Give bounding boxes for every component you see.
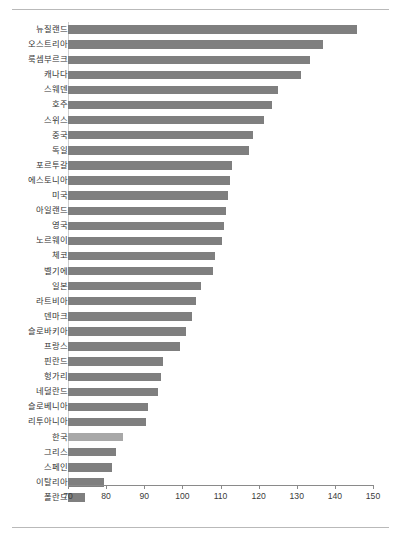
bar: [68, 131, 253, 139]
bar: [68, 297, 196, 305]
bar-track: [68, 128, 373, 143]
bar: [68, 252, 215, 260]
bar-track: [68, 264, 373, 279]
bar-category-label: 슬로바키아: [0, 324, 68, 339]
bar-row: 핀란드: [0, 354, 401, 369]
bar-category-label: 오스트리아: [0, 37, 68, 52]
bar-track: [68, 37, 373, 52]
bar-category-label: 룩셈부르크: [0, 52, 68, 67]
bar-category-label: 헝가리: [0, 369, 68, 384]
bar-category-label: 영국: [0, 218, 68, 233]
bar-row: 네덜란드: [0, 384, 401, 399]
bar-track: [68, 384, 373, 399]
bar-track: [68, 233, 373, 248]
bar: [68, 388, 158, 396]
bar-track: [68, 113, 373, 128]
bar-category-label: 포르투갈: [0, 158, 68, 173]
bar: [68, 357, 163, 365]
bar-category-label: 핀란드: [0, 354, 68, 369]
bar-category-label: 독일: [0, 143, 68, 158]
bottom-divider-rule: [12, 527, 389, 528]
bar-row: 오스트리아: [0, 37, 401, 52]
x-axis-tick-label: 100: [162, 491, 202, 501]
x-axis-tick-label: 90: [124, 491, 164, 501]
bar-row: 중국: [0, 128, 401, 143]
bar: [68, 418, 146, 426]
bar-category-label: 일본: [0, 279, 68, 294]
bar: [68, 176, 230, 184]
bar-track: [68, 430, 373, 445]
bar: [68, 222, 224, 230]
bar-row: 리투아니아: [0, 414, 401, 429]
bar: [68, 71, 301, 79]
bar-track: [68, 22, 373, 37]
bar-row: 스위스: [0, 113, 401, 128]
bar-track: [68, 82, 373, 97]
x-axis-tick: [106, 485, 107, 489]
bar: [68, 101, 272, 109]
bar-category-label: 캐나다: [0, 67, 68, 82]
bar-row: 체코: [0, 248, 401, 263]
bar-track: [68, 188, 373, 203]
bar: [68, 86, 278, 94]
top-divider-rule: [12, 9, 389, 10]
bar-track: [68, 399, 373, 414]
bar-track: [68, 279, 373, 294]
bar-category-label: 벨기에: [0, 264, 68, 279]
bar-category-label: 아일랜드: [0, 203, 68, 218]
bar-row: 노르웨이: [0, 233, 401, 248]
bar-track: [68, 369, 373, 384]
bar-category-label: 에스토니아: [0, 173, 68, 188]
bar-row: 호주: [0, 97, 401, 112]
x-axis-tick: [259, 485, 260, 489]
bar-category-label: 한국: [0, 430, 68, 445]
bar-category-label: 스웨덴: [0, 82, 68, 97]
bar-row: 그리스: [0, 445, 401, 460]
bar: [68, 403, 148, 411]
x-axis-tick: [335, 485, 336, 489]
bar: [68, 56, 310, 64]
x-axis-tick-label: 80: [86, 491, 126, 501]
x-axis-tick-label: 140: [315, 491, 355, 501]
bar: [68, 191, 228, 199]
bar-category-label: 스페인: [0, 460, 68, 475]
bar: [68, 448, 116, 456]
bar-row: 스웨덴: [0, 82, 401, 97]
bar: [68, 237, 222, 245]
bar-row: 프랑스: [0, 339, 401, 354]
bar-row: 캐나다: [0, 67, 401, 82]
bar-row: 미국: [0, 188, 401, 203]
bar-track: [68, 309, 373, 324]
x-axis-tick: [144, 485, 145, 489]
x-axis-tick: [297, 485, 298, 489]
x-axis-tick: [373, 485, 374, 489]
bar-chart-figure: 뉴질랜드오스트리아룩셈부르크캐나다스웨덴호주스위스중국독일포르투갈에스토니아미국…: [0, 0, 401, 540]
bar-track: [68, 324, 373, 339]
bar-track: [68, 294, 373, 309]
bar-category-label: 미국: [0, 188, 68, 203]
bar-category-label: 그리스: [0, 445, 68, 460]
bar: [68, 40, 323, 48]
bar-category-label: 노르웨이: [0, 233, 68, 248]
bar-row: 스페인: [0, 460, 401, 475]
bar: [68, 267, 213, 275]
bar-row: 룩셈부르크: [0, 52, 401, 67]
bar-category-label: 덴마크: [0, 309, 68, 324]
bar-track: [68, 218, 373, 233]
bar-row: 독일: [0, 143, 401, 158]
x-axis-tick-label: 130: [277, 491, 317, 501]
bar-track: [68, 97, 373, 112]
bar-track: [68, 339, 373, 354]
bar-row: 슬로베니아: [0, 399, 401, 414]
bar-category-label: 라트비아: [0, 294, 68, 309]
x-axis-tick: [221, 485, 222, 489]
bar-row: 한국: [0, 430, 401, 445]
bar-row: 헝가리: [0, 369, 401, 384]
bar-track: [68, 52, 373, 67]
bar-row: 이탈리아: [0, 475, 401, 490]
bar-track: [68, 67, 373, 82]
plot-area: 뉴질랜드오스트리아룩셈부르크캐나다스웨덴호주스위스중국독일포르투갈에스토니아미국…: [0, 22, 401, 517]
bar: [68, 161, 232, 169]
bar: [68, 146, 249, 154]
bar-category-label: 뉴질랜드: [0, 22, 68, 37]
